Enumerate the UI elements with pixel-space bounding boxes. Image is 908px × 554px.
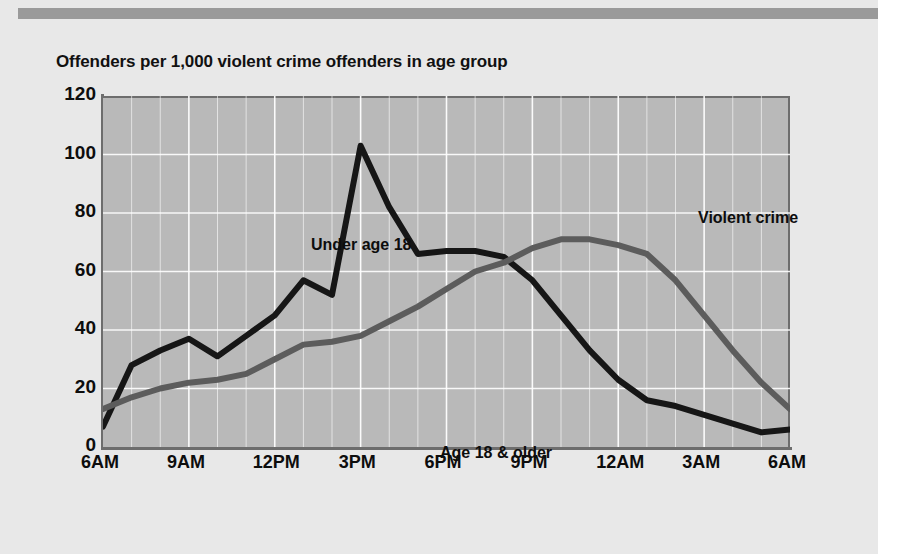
x-axis-tick-label: 3AM	[682, 452, 720, 473]
y-axis-tick-label: 100	[50, 142, 96, 164]
page-background: Offenders per 1,000 violent crime offend…	[0, 0, 878, 554]
x-axis-tick-label: 9AM	[167, 452, 205, 473]
plot-area: Under age 18 Age 18 & older Violent crim…	[103, 96, 790, 447]
y-axis-tick-label: 40	[50, 317, 96, 339]
page-title: Offenders per 1,000 violent crime offend…	[56, 52, 508, 72]
x-axis-tick-label: 9PM	[510, 452, 547, 473]
y-axis-tick-label: 60	[50, 259, 96, 281]
y-axis-tick-label: 20	[50, 376, 96, 398]
line-chart-svg	[103, 96, 790, 447]
x-axis-tick-label: 12PM	[253, 452, 300, 473]
y-axis-tick-label: 120	[50, 83, 96, 105]
x-axis-tick-label: 12AM	[596, 452, 644, 473]
x-axis-tick-label: 6PM	[425, 452, 462, 473]
y-axis-tick-label: 80	[50, 200, 96, 222]
chart-type-label: Violent crime	[698, 209, 798, 227]
x-axis-tick-label: 6AM	[81, 452, 119, 473]
x-axis-tick-label: 3PM	[339, 452, 376, 473]
top-rule-divider	[18, 8, 878, 19]
series-label-under-18: Under age 18	[311, 236, 411, 254]
x-axis-tick-label: 6AM	[768, 452, 806, 473]
